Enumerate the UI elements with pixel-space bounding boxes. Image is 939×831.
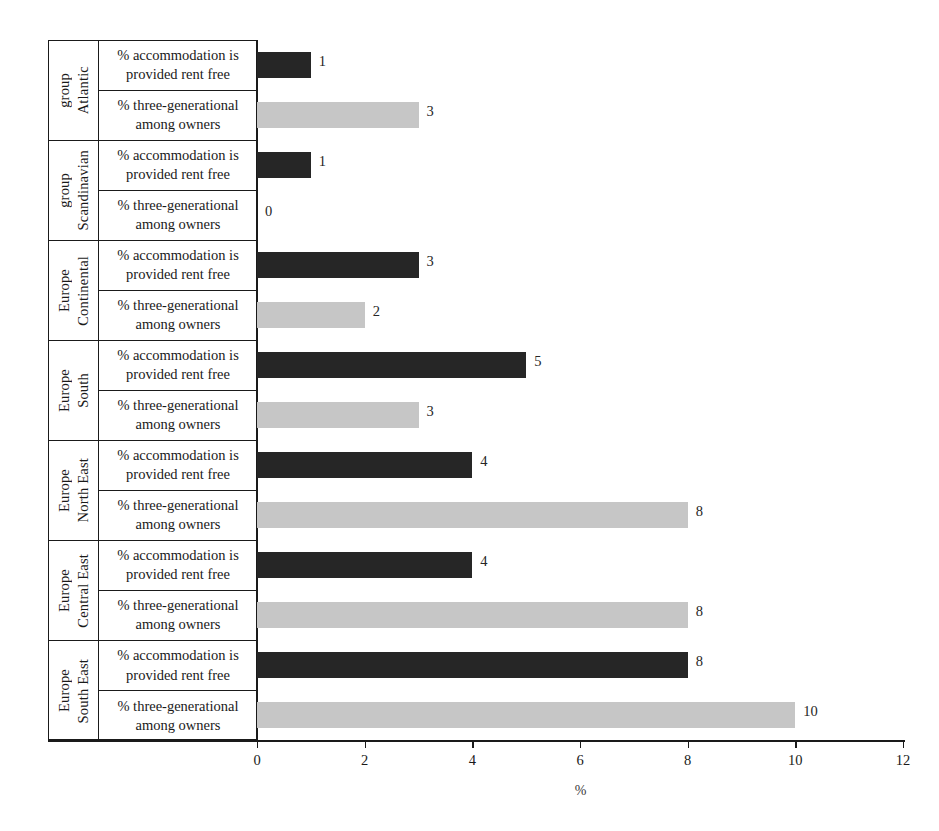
series-label-line: among owners [117, 415, 238, 434]
bar[interactable] [257, 152, 311, 178]
bar-row: 8 [257, 640, 903, 690]
series-label-cells: % accommodation isprovided rent free% th… [99, 641, 257, 741]
bar[interactable] [257, 252, 419, 278]
bar-value-label: 3 [427, 103, 434, 120]
group-label-line: Scandinavian [74, 150, 93, 231]
bar-row: 5 [257, 340, 903, 390]
bar-value-label: 0 [265, 203, 272, 220]
series-label-cell: % accommodation isprovided rent free [99, 241, 257, 291]
group-label-line: group [55, 73, 74, 108]
series-label-line: among owners [117, 615, 238, 634]
bar-row: 1 [257, 140, 903, 190]
bar[interactable] [257, 502, 688, 528]
series-label-line: % accommodation is [117, 646, 239, 665]
bar[interactable] [257, 552, 472, 578]
group-label-line: Europe [55, 269, 74, 312]
bar[interactable] [257, 402, 419, 428]
bar-value-label: 1 [319, 53, 326, 70]
category-group-row: Central EastEurope% accommodation isprov… [49, 541, 257, 641]
category-group-row: SouthEurope% accommodation isprovided re… [49, 341, 257, 441]
bar[interactable] [257, 702, 795, 728]
bar[interactable] [257, 452, 472, 478]
group-label-line: Europe [55, 469, 74, 512]
category-group-row: ContinentalEurope% accommodation isprovi… [49, 241, 257, 341]
category-group-row: North EastEurope% accommodation isprovid… [49, 441, 257, 541]
x-axis-tick [580, 740, 581, 748]
x-axis-tick-label: 8 [684, 752, 691, 769]
bar-value-label: 5 [534, 353, 541, 370]
series-label-line: % three-generational [117, 496, 238, 515]
bar-value-label: 4 [480, 453, 487, 470]
series-label-cell: % accommodation isprovided rent free [99, 141, 257, 191]
x-axis-tick-label: 10 [788, 752, 803, 769]
bar[interactable] [257, 52, 311, 78]
group-label-line: Atlantic [74, 66, 93, 114]
category-group-row: Atlanticgroup% accommodation isprovided … [49, 41, 257, 141]
x-axis-tick-label: 12 [896, 752, 911, 769]
bar[interactable] [257, 102, 419, 128]
group-label-line: Central East [74, 554, 93, 628]
series-label-cell: % accommodation isprovided rent free [99, 41, 257, 91]
bar-row: 4 [257, 540, 903, 590]
bar[interactable] [257, 352, 526, 378]
series-label-cell: % accommodation isprovided rent free [99, 441, 257, 491]
plot-area: 131032534848810 [257, 40, 903, 740]
group-label-line: Europe [55, 369, 74, 412]
bar-row: 10 [257, 690, 903, 740]
series-label-line: among owners [117, 515, 238, 534]
series-label-cell: % three-generationalamong owners [99, 491, 257, 541]
bar-row: 8 [257, 490, 903, 540]
bar-row: 2 [257, 290, 903, 340]
x-axis-tick-label: 4 [469, 752, 476, 769]
group-label-line: South [74, 373, 93, 408]
bar-value-label: 1 [319, 153, 326, 170]
group-label-cell: ContinentalEurope [49, 241, 99, 340]
series-label-line: provided rent free [117, 65, 239, 84]
x-axis-title: % [0, 783, 939, 799]
series-label-line: % accommodation is [117, 546, 239, 565]
series-label-cell: % accommodation isprovided rent free [99, 341, 257, 391]
x-axis-tick [472, 740, 473, 748]
category-table: Atlanticgroup% accommodation isprovided … [48, 40, 257, 740]
series-label-line: % three-generational [117, 596, 238, 615]
group-label-line: Continental [74, 256, 93, 326]
group-label-line: group [55, 173, 74, 208]
series-label-cell: % three-generationalamong owners [99, 691, 257, 741]
series-label-line: % accommodation is [117, 46, 239, 65]
bar[interactable] [257, 302, 365, 328]
x-axis-tick [903, 740, 904, 748]
bar-row: 3 [257, 390, 903, 440]
group-label-cell: North EastEurope [49, 441, 99, 540]
bar[interactable] [257, 602, 688, 628]
series-label-cell: % three-generationalamong owners [99, 291, 257, 341]
series-label-line: % three-generational [117, 96, 238, 115]
bar-row: 4 [257, 440, 903, 490]
series-label-line: % three-generational [117, 196, 238, 215]
series-label-line: % three-generational [117, 296, 238, 315]
series-label-cell: % accommodation isprovided rent free [99, 641, 257, 691]
series-label-cells: % accommodation isprovided rent free% th… [99, 441, 257, 540]
series-label-cells: % accommodation isprovided rent free% th… [99, 341, 257, 440]
bar-value-label: 2 [373, 303, 380, 320]
group-label-cell: Scandinaviangroup [49, 141, 99, 240]
x-axis-title-label: % [575, 783, 587, 798]
horizontal-bar-chart: Atlanticgroup% accommodation isprovided … [0, 0, 939, 831]
group-label-line: South East [74, 659, 93, 723]
bar-value-label: 3 [427, 403, 434, 420]
bar-row: 0 [257, 190, 903, 240]
series-label-line: among owners [117, 716, 238, 735]
series-label-cells: % accommodation isprovided rent free% th… [99, 541, 257, 640]
x-axis-tick [795, 740, 796, 748]
series-label-cell: % three-generationalamong owners [99, 591, 257, 641]
bar[interactable] [257, 652, 688, 678]
x-axis-tick [688, 740, 689, 748]
series-label-cell: % three-generationalamong owners [99, 391, 257, 441]
group-label-cell: Central EastEurope [49, 541, 99, 640]
x-axis-tick-label: 0 [253, 752, 260, 769]
bar-row: 3 [257, 90, 903, 140]
series-label-cell: % accommodation isprovided rent free [99, 541, 257, 591]
group-label-cell: Atlanticgroup [49, 41, 99, 140]
series-label-line: provided rent free [117, 666, 239, 685]
series-label-line: among owners [117, 315, 238, 334]
series-label-line: provided rent free [117, 465, 239, 484]
